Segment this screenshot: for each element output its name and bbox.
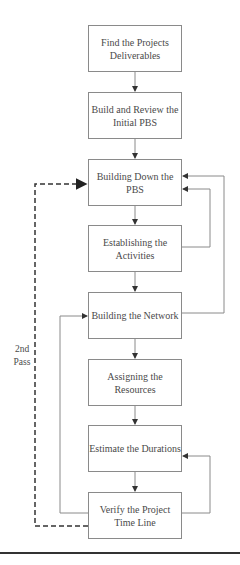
step-label: Building the Network [91,309,178,322]
bottom-rule [0,552,240,554]
step-build-review-pbs: Build and Review the Initial PBS [88,92,182,139]
step-label: Estimate the Durations [89,442,181,455]
step-building-network: Building the Network [88,292,182,339]
step-estimate-durations: Estimate the Durations [88,425,182,472]
step-assigning-resources: Assigning the Resources [88,359,182,406]
step-label: Find the Projects Deliverables [89,36,181,62]
connectors [0,0,240,565]
step-establishing-activities: Establishing the Activities [88,225,182,272]
step-label: Assigning the Resources [89,370,181,396]
step-label: Building Down the PBS [89,170,181,196]
step-label: Verify the Project Time Line [89,503,181,529]
second-pass-label: 2nd Pass [9,343,35,369]
step-label: Establishing the Activities [89,236,181,262]
step-label: Build and Review the Initial PBS [89,103,181,129]
step-verify-timeline: Verify the Project Time Line [88,492,182,539]
step-building-down-pbs: Building Down the PBS [88,159,182,206]
step-find-deliverables: Find the Projects Deliverables [88,25,182,72]
